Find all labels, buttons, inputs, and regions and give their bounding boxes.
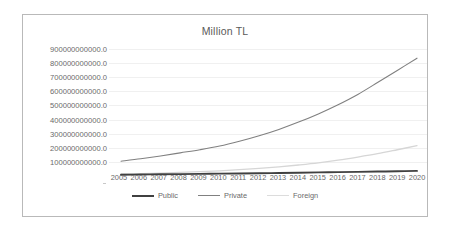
x-axis-tick-label: 2015 <box>308 173 328 182</box>
chart-legend: PublicPrivateForeign <box>23 191 427 200</box>
x-axis-tick-label: 2009 <box>189 173 209 182</box>
chart-container: Million TL 900000000000.0800000000000.07… <box>22 14 428 217</box>
x-axis-tick-label: 2016 <box>328 173 348 182</box>
legend-swatch-icon <box>198 195 220 196</box>
legend-item-private[interactable]: Private <box>198 191 247 200</box>
x-axis-tick-label: 2005 <box>109 173 129 182</box>
legend-label: Private <box>224 191 247 200</box>
y-axis-origin-tick <box>103 183 106 184</box>
y-axis-tick-label: 400000000000.0 <box>27 115 107 124</box>
y-axis-tick-label: 700000000000.0 <box>27 73 107 82</box>
x-axis-tick-label: 2020 <box>407 173 427 182</box>
x-axis-tick-label: 2010 <box>208 173 228 182</box>
y-axis-tick-label: 800000000000.0 <box>27 59 107 68</box>
x-axis-tick-label: 2006 <box>129 173 149 182</box>
x-axis-tick-labels: 2005200620072008200920102011201220132014… <box>109 173 427 182</box>
y-axis-tick-label: 900000000000.0 <box>27 45 107 54</box>
series-line-private <box>121 58 417 161</box>
x-axis-tick-label: 2013 <box>268 173 288 182</box>
x-axis-tick-label: 2012 <box>248 173 268 182</box>
legend-item-public[interactable]: Public <box>132 191 178 200</box>
legend-label: Foreign <box>293 191 318 200</box>
plot-area <box>109 15 427 218</box>
legend-item-foreign[interactable]: Foreign <box>267 191 318 200</box>
y-axis-tick-label: 600000000000.0 <box>27 87 107 96</box>
series-line-foreign <box>121 146 417 174</box>
legend-swatch-icon <box>267 195 289 196</box>
y-axis-tick-label: 200000000000.0 <box>27 143 107 152</box>
y-axis-tick-labels: 900000000000.0800000000000.0700000000000… <box>27 15 107 216</box>
x-axis-tick-label: 2011 <box>228 173 248 182</box>
x-axis-tick-label: 2017 <box>348 173 368 182</box>
series-lines <box>109 15 427 218</box>
x-axis-tick-label: 2014 <box>288 173 308 182</box>
x-axis-tick-label: 2019 <box>387 173 407 182</box>
y-axis-tick-label: 300000000000.0 <box>27 129 107 138</box>
legend-swatch-icon <box>132 195 154 197</box>
x-axis-tick-label: 2007 <box>149 173 169 182</box>
plot-wrapper: 900000000000.0800000000000.0700000000000… <box>23 15 427 216</box>
x-axis-tick-label: 2008 <box>169 173 189 182</box>
y-axis-tick-label: 100000000000.0 <box>27 157 107 166</box>
x-axis-tick-label: 2018 <box>367 173 387 182</box>
legend-label: Public <box>158 191 178 200</box>
y-axis-tick-label: 500000000000.0 <box>27 101 107 110</box>
